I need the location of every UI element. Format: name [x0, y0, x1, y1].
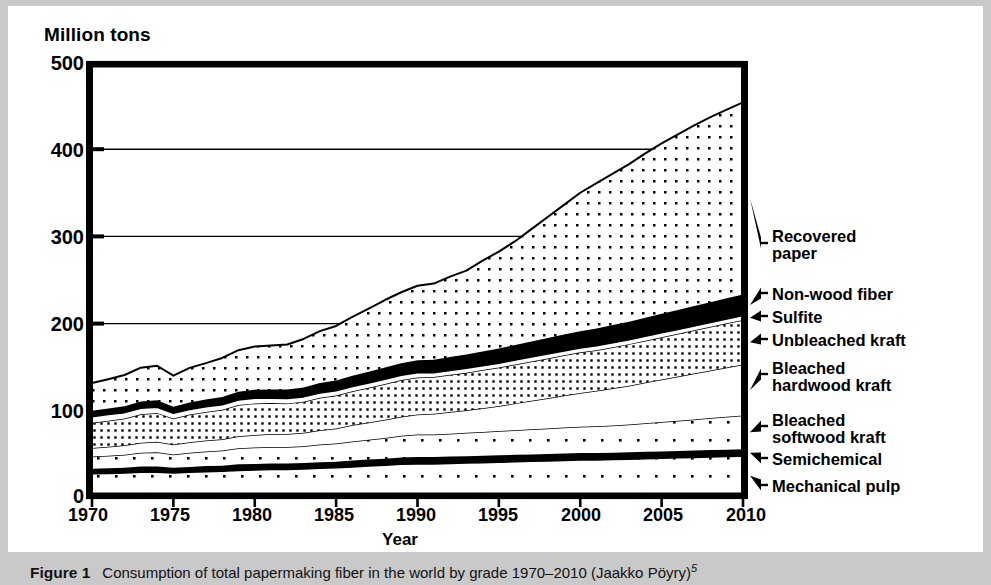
legend-pointer-arrow	[750, 369, 761, 390]
x-tick-1995: 1995	[463, 505, 533, 526]
caption-reference-marker: 5	[691, 562, 697, 574]
legend-item-non-wood-fiber: Non-wood fiber	[772, 286, 893, 303]
legend-item-unbleached-kraft: Unbleached kraft	[772, 332, 906, 349]
x-tick-1975: 1975	[135, 505, 205, 526]
plot-area: Million tons	[0, 0, 991, 585]
y-tick-300: 300	[28, 226, 84, 249]
legend-pointer-arrow	[750, 288, 761, 305]
x-tick-1980: 1980	[217, 505, 287, 526]
legend-item-bleached-hardwood-kraft: Bleached hardwood kraft	[772, 360, 891, 394]
legend-pointer-arrow	[750, 421, 761, 433]
figure-caption: Figure 1Consumption of total papermaking…	[30, 562, 697, 582]
legend-pointer-arrow	[750, 476, 761, 491]
x-tick-2000: 2000	[546, 505, 616, 526]
y-tick-200: 200	[28, 313, 84, 336]
legend-item-recovered-paper: Recovered paper	[772, 228, 856, 262]
legend-pointer-arrow	[750, 198, 761, 248]
x-tick-2005: 2005	[628, 505, 698, 526]
x-tick-1990: 1990	[381, 505, 451, 526]
legend-pointer-arrow	[750, 453, 761, 464]
y-tick-100: 100	[28, 400, 84, 423]
x-tick-1970: 1970	[53, 505, 123, 526]
legend-item-mechanical-pulp: Mechanical pulp	[772, 478, 900, 495]
legend-pointer-arrow	[750, 311, 761, 322]
y-tick-400: 400	[28, 139, 84, 162]
figure-root: Million tons	[0, 0, 991, 585]
legend-pointer-arrow	[750, 334, 761, 345]
x-tick-1985: 1985	[299, 505, 369, 526]
y-tick-500: 500	[28, 52, 84, 75]
x-tick-2010: 2010	[711, 505, 781, 526]
legend-item-sulfite: Sulfite	[772, 309, 822, 326]
legend-item-bleached-softwood-kraft: Bleached softwood kraft	[772, 412, 886, 446]
figure-caption-text: Consumption of total papermaking fiber i…	[102, 564, 691, 581]
legend-arrows	[750, 198, 768, 490]
figure-number: Figure 1	[30, 564, 90, 581]
x-axis-title: Year	[0, 530, 800, 550]
legend-item-semichemical: Semichemical	[772, 451, 882, 468]
